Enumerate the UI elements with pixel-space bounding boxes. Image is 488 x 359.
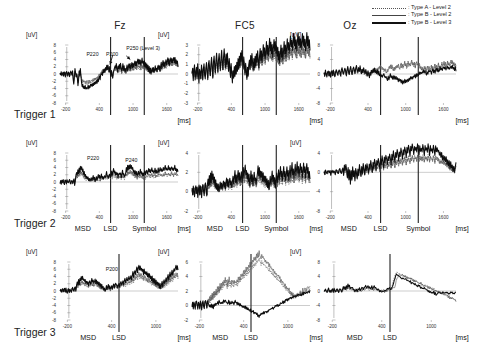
- svg-text:0: 0: [185, 189, 188, 194]
- svg-text:1000: 1000: [401, 215, 412, 220]
- svg-text:400: 400: [108, 324, 116, 329]
- svg-text:0: 0: [317, 289, 320, 294]
- panel-trigger-2-oz: [uV]-8-404-20040010001600[ms]MSDLSDSymbo…: [290, 139, 482, 247]
- svg-text:8: 8: [53, 151, 56, 156]
- svg-text:4: 4: [317, 151, 320, 156]
- event-label-msd: MSD: [80, 333, 96, 342]
- svg-text:-200: -200: [328, 324, 338, 329]
- event-label-msd: MSD: [207, 224, 223, 233]
- svg-text:400: 400: [227, 215, 235, 220]
- svg-text:-8: -8: [316, 101, 321, 106]
- svg-text:4: 4: [185, 274, 188, 279]
- legend-label: : Type B - Level 2: [408, 11, 451, 18]
- svg-text:-2: -2: [184, 318, 189, 323]
- svg-text:4: 4: [53, 165, 56, 170]
- peak-annotation: P250 (Level 3): [126, 45, 160, 51]
- legend-label: : Type B - Level 3: [408, 19, 451, 26]
- peak-annotation: P220: [86, 51, 98, 57]
- svg-text:6: 6: [53, 158, 56, 163]
- svg-text:0: 0: [317, 72, 320, 77]
- svg-text:4: 4: [53, 57, 56, 62]
- svg-text:-3: -3: [184, 101, 189, 106]
- svg-text:4: 4: [317, 57, 320, 62]
- svg-text:-4: -4: [52, 194, 57, 199]
- svg-text:-200: -200: [193, 107, 203, 112]
- svg-text:-6: -6: [52, 310, 57, 315]
- svg-text:-200: -200: [195, 324, 205, 329]
- column-title-fc5: FC5: [185, 20, 305, 31]
- svg-text:400: 400: [95, 215, 103, 220]
- svg-text:400: 400: [227, 107, 235, 112]
- svg-text:-200: -200: [193, 215, 203, 220]
- svg-text:-8: -8: [316, 209, 321, 214]
- svg-text:-2: -2: [184, 209, 189, 214]
- svg-text:-4: -4: [316, 303, 321, 308]
- svg-text:8: 8: [53, 260, 56, 265]
- svg-text:0: 0: [53, 289, 56, 294]
- svg-text:1000: 1000: [128, 215, 139, 220]
- event-label-lsd: LSD: [383, 333, 397, 342]
- panel-trigger-3-oz: [uV]-8-4048-2004001000[ms]MSDLSD: [290, 248, 482, 356]
- event-label-lsd: LSD: [236, 224, 250, 233]
- y-axis-unit-label: [uV]: [290, 31, 301, 38]
- y-axis-unit-label: [uV]: [290, 248, 301, 255]
- svg-text:4: 4: [53, 274, 56, 279]
- svg-text:400: 400: [95, 107, 103, 112]
- legend: : Type A - Level 2 : Type B - Level 2 : …: [372, 4, 451, 26]
- x-axis-unit-label: [ms]: [455, 225, 468, 233]
- legend-label: : Type A - Level 2: [408, 4, 451, 11]
- svg-text:1600: 1600: [438, 107, 449, 112]
- legend-item-type-a-level-2: : Type A - Level 2: [372, 4, 451, 11]
- svg-text:-4: -4: [52, 303, 57, 308]
- svg-text:3: 3: [185, 43, 188, 48]
- svg-text:0: 0: [317, 170, 320, 175]
- peak-annotation: P220: [87, 155, 99, 161]
- legend-item-type-b-level-2: : Type B - Level 2: [372, 11, 451, 18]
- svg-text:4: 4: [317, 274, 320, 279]
- peak-annotation: P200: [106, 266, 118, 272]
- y-axis-unit-label: [uV]: [290, 139, 301, 146]
- svg-text:0: 0: [53, 180, 56, 185]
- svg-text:2: 2: [53, 64, 56, 69]
- panel-trigger-1-oz: [uV]-8-4048-20040010001600[ms]: [290, 31, 482, 139]
- svg-text:-6: -6: [52, 201, 57, 206]
- legend-line-thick-icon: [372, 19, 406, 25]
- y-axis-unit-label: [uV]: [158, 248, 169, 255]
- event-label-msd: MSD: [212, 333, 228, 342]
- event-label-symbol: Symbol: [264, 224, 288, 233]
- event-label-lsd: LSD: [104, 224, 118, 233]
- event-label-lsd: LSD: [112, 333, 126, 342]
- svg-text:-200: -200: [326, 215, 336, 220]
- svg-text:-2: -2: [52, 296, 57, 301]
- svg-text:0: 0: [185, 72, 188, 77]
- figure-root: Fz FC5 Oz : Type A - Level 2 : Type B - …: [0, 0, 488, 359]
- legend-line-dotted-icon: [372, 5, 406, 11]
- event-label-msd: MSD: [341, 224, 357, 233]
- svg-text:4: 4: [185, 151, 188, 156]
- event-label-symbol: Symbol: [406, 224, 430, 233]
- svg-text:-8: -8: [52, 101, 57, 106]
- svg-text:1000: 1000: [128, 107, 139, 112]
- svg-text:-8: -8: [52, 318, 57, 323]
- svg-text:1000: 1000: [401, 107, 412, 112]
- svg-text:2: 2: [185, 289, 188, 294]
- svg-text:400: 400: [364, 215, 372, 220]
- y-axis-unit-label: [uV]: [158, 31, 169, 38]
- svg-text:-2: -2: [184, 91, 189, 96]
- svg-text:-4: -4: [316, 189, 321, 194]
- svg-text:1000: 1000: [260, 215, 271, 220]
- svg-text:-2: -2: [52, 79, 57, 84]
- peak-annotation: P240: [125, 157, 137, 163]
- svg-text:-8: -8: [316, 318, 321, 323]
- svg-text:1600: 1600: [438, 215, 449, 220]
- svg-text:-200: -200: [326, 107, 336, 112]
- legend-line-thin-icon: [372, 12, 406, 18]
- column-title-fz: Fz: [60, 20, 180, 31]
- y-axis-unit-label: [uV]: [26, 248, 37, 255]
- legend-item-type-b-level-3: : Type B - Level 3: [372, 19, 451, 26]
- y-axis-unit-label: [uV]: [26, 31, 37, 38]
- svg-text:8: 8: [53, 43, 56, 48]
- svg-text:-1: -1: [184, 81, 189, 86]
- svg-text:400: 400: [378, 324, 386, 329]
- svg-text:2: 2: [53, 281, 56, 286]
